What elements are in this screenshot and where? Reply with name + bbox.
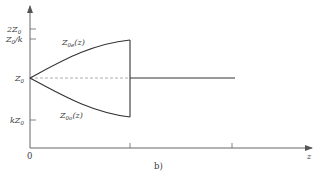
curve-label-z0e: Z0e(z) <box>61 38 85 48</box>
label-z0-over-k: Z0/k <box>5 35 23 45</box>
impedance-profile-diagram: 2Z0 Z0/k Z0 kZ0 0 z Z0e(z) Z0o(z) <box>0 0 316 178</box>
origin-label: 0 <box>27 151 32 161</box>
label-kz0: kZ0 <box>10 116 24 126</box>
label-z0: Z0 <box>14 74 25 84</box>
label-2z0: 2Z0 <box>6 25 22 35</box>
figure-caption: b) <box>154 161 163 171</box>
z-axis-label: z <box>306 152 312 161</box>
curve-label-z0o: Z0o(z) <box>59 111 83 121</box>
